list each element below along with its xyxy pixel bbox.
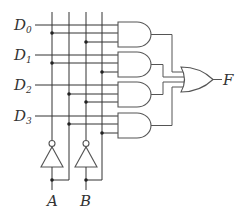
label-b: B [79, 192, 91, 210]
wire-g3-out [151, 87, 184, 126]
wire-g0-out [151, 35, 184, 73]
or-gate [181, 67, 213, 92]
not-bubble-a [49, 141, 55, 147]
junction-dot [50, 178, 54, 182]
not-bubble-b [83, 141, 89, 147]
and-gate-3 [118, 113, 151, 138]
and-gate-0 [118, 22, 151, 47]
label-d0: D0 [13, 16, 32, 35]
wire-g2-out [151, 82, 185, 95]
junction-dot [84, 100, 88, 104]
label-d3: D3 [13, 107, 32, 126]
junction-dot [100, 70, 104, 74]
junction-dot [100, 131, 104, 135]
label-d1: D1 [13, 46, 32, 65]
junction-dot [67, 122, 71, 126]
junction-dot [84, 178, 88, 182]
label-f: F [222, 71, 234, 89]
not-gate-b [75, 147, 97, 167]
junction-dot [84, 40, 88, 44]
label-a: A [45, 192, 58, 210]
not-gate-a [41, 147, 63, 167]
wire-g1-out [151, 65, 185, 78]
junction-dot [50, 61, 54, 65]
mux-circuit-diagram: D0 D1 D2 D3 A B F [0, 0, 245, 221]
junction-dot [50, 31, 54, 35]
circuit-svg: D0 D1 D2 D3 A B F [0, 0, 245, 221]
and-gate-2 [118, 82, 151, 107]
junction-dot [67, 92, 71, 96]
label-d2: D2 [13, 76, 32, 95]
and-gate-1 [118, 52, 151, 77]
